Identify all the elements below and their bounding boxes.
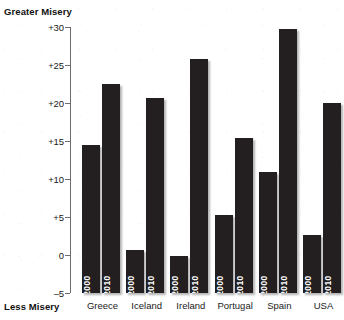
bar-iceland-2010[interactable]: 2010 [146,98,164,293]
bar-group-ireland: 20002010 [170,27,211,293]
bar-iceland-2000[interactable]: 2000 [126,250,144,293]
x-label-portugal: Portugal [217,300,252,311]
bar-usa-2010[interactable]: 2010 [323,103,341,293]
bar-spain-2000[interactable]: 2000 [259,172,277,293]
bar-portugal-2000[interactable]: 2000 [215,215,233,293]
bar-group-iceland: 20002010 [126,27,167,293]
x-label-usa: USA [314,300,334,311]
y-tick-30 [65,27,70,28]
x-label-greece: Greece [87,300,118,311]
bar-year-label: 2000 [171,275,180,293]
bar-group-portugal: 20002010 [215,27,256,293]
y-tick-label-25: +25 [48,60,64,71]
bar-year-label: 2000 [83,275,92,293]
y-tick-20 [65,103,70,104]
y-tick-label-0: 0 [59,250,64,261]
x-axis-category-labels: GreeceIcelandIrelandPortugalSpainUSA [70,300,338,316]
y-tick-5 [65,217,70,218]
bar-year-label: 2000 [127,275,136,293]
x-label-iceland: Iceland [131,300,162,311]
x-label-ireland: Ireland [176,300,205,311]
bar-year-label: 2010 [103,275,112,293]
axis-title-less-misery: Less Misery [4,301,60,312]
bar-greece-2000[interactable]: 2000 [82,145,100,293]
y-tick-15 [65,141,70,142]
bar-year-label: 2000 [215,275,224,293]
bar-year-label: 2010 [235,275,244,293]
axis-title-greater-misery: Greater Misery [4,6,72,17]
bar-portugal-2010[interactable]: 2010 [235,138,253,293]
bar-year-label: 2000 [259,275,268,293]
bar-usa-2000[interactable]: 2000 [303,235,321,293]
bar-ireland-2000[interactable]: 2000 [170,256,188,293]
y-tick-10 [65,179,70,180]
bar-spain-2010[interactable]: 2010 [279,29,297,293]
y-axis-line [70,27,71,293]
bar-year-label: 2010 [324,275,333,293]
bar-ireland-2010[interactable]: 2010 [190,59,208,293]
plot-area: 2000201020002010200020102000201020002010… [70,27,338,293]
y-tick-label--5: –5 [54,288,64,299]
y-tick-label-20: +20 [48,98,64,109]
bar-greece-2010[interactable]: 2010 [102,84,120,293]
y-tick--5 [65,293,70,294]
bar-year-label: 2010 [279,275,288,293]
y-tick-25 [65,65,70,66]
bar-group-spain: 20002010 [259,27,300,293]
x-label-spain: Spain [267,300,291,311]
y-axis-tick-labels: +30+25+20+15+10+50–5 [28,27,64,293]
bar-group-greece: 20002010 [82,27,123,293]
y-tick-label-10: +10 [48,174,64,185]
bar-year-label: 2000 [304,275,313,293]
bar-year-label: 2010 [147,275,156,293]
y-tick-0 [65,255,70,256]
y-tick-label-5: +5 [53,212,64,223]
bar-group-usa: 20002010 [303,27,344,293]
y-tick-label-15: +15 [48,136,64,147]
y-tick-label-30: +30 [48,22,64,33]
bar-year-label: 2010 [191,275,200,293]
